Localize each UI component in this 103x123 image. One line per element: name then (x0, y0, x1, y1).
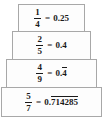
fraction-numerator: 1 (34, 8, 41, 17)
fraction-numerator: 4 (37, 63, 44, 72)
fraction-denominator: 7 (25, 104, 32, 113)
decimal-value: 0.25 (53, 14, 69, 23)
equation-box: 4 9 = 0.4 (6, 59, 97, 88)
equals-sign: = (47, 69, 52, 78)
equation-box: 1 4 = 0.25 (18, 4, 85, 32)
fraction: 4 9 (36, 63, 43, 84)
fraction-numerator: 5 (25, 92, 32, 101)
equation-box: 2 5 = 0.4 (12, 31, 91, 60)
fraction-denominator: 9 (37, 75, 44, 84)
decimal-value: 0.4 (55, 69, 66, 78)
equation: 2 5 = 0.4 (36, 35, 66, 56)
equation: 1 4 = 0.25 (34, 8, 69, 29)
equation-box: 5 7 = 0.714285 (1, 87, 102, 117)
fraction: 2 5 (36, 35, 43, 56)
fraction-decimal-diagram: 1 4 = 0.25 2 5 = 0.4 4 (0, 0, 103, 123)
repeating-digits-overbar: 4 (62, 69, 67, 78)
equals-sign: = (36, 98, 41, 107)
decimal-value: 0.4 (55, 41, 66, 50)
decimal-prefix: 0. (55, 69, 62, 78)
repeating-digits-overbar: 714285 (51, 98, 78, 107)
equals-sign: = (45, 14, 50, 23)
equals-sign: = (47, 41, 52, 50)
equation: 4 9 = 0.4 (36, 63, 66, 84)
equation: 5 7 = 0.714285 (25, 92, 78, 113)
fraction-numerator: 2 (37, 35, 44, 44)
decimal-prefix: 0.4 (55, 41, 66, 50)
decimal-prefix: 0. (44, 98, 51, 107)
decimal-value: 0.714285 (44, 98, 78, 107)
decimal-prefix: 0.25 (53, 14, 69, 23)
fraction: 1 4 (34, 8, 41, 29)
fraction-denominator: 4 (34, 20, 41, 29)
fraction: 5 7 (25, 92, 32, 113)
fraction-denominator: 5 (37, 47, 44, 56)
